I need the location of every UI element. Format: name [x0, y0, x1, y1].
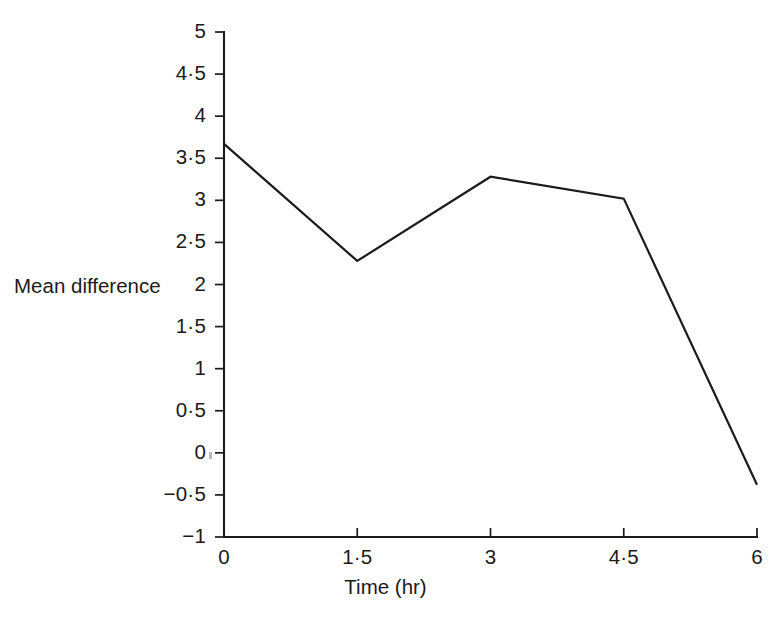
x-axis-tick-label: 4·5	[584, 545, 664, 569]
x-axis-title: Time (hr)	[0, 575, 771, 599]
data-series-line	[224, 144, 757, 485]
y-axis-tick-label: 4·5	[176, 61, 206, 85]
y-axis-tick-label: 3	[194, 187, 206, 211]
y-axis-tick-label: 3·5	[176, 145, 206, 169]
x-axis-ticks	[224, 528, 757, 537]
x-axis-tick-label: 0	[184, 545, 264, 569]
line-chart-plot	[0, 0, 771, 620]
x-axis-tick-label: 6	[717, 545, 771, 569]
y-axis-tick-label: 0	[194, 440, 206, 464]
y-axis-title: Mean difference	[14, 274, 161, 298]
x-axis-tick-label: 1·5	[317, 545, 397, 569]
y-axis-tick-label: 2·5	[176, 229, 206, 253]
x-axis-tick-label: 3	[451, 545, 531, 569]
scan-artifact-mark	[209, 452, 212, 459]
y-axis-tick-label: 1·5	[176, 314, 206, 338]
y-axis-tick-label: 5	[194, 19, 206, 43]
y-axis-tick-label: −0·5	[164, 482, 206, 506]
chart-figure: 54·543·532·521·510·50−0·5−1 01·534·56 Me…	[0, 0, 771, 620]
y-axis-tick-label: 1	[194, 356, 206, 380]
y-axis-ticks	[215, 32, 224, 537]
y-axis-tick-label: 4	[194, 103, 206, 127]
y-axis-tick-label: 0·5	[176, 398, 206, 422]
y-axis-tick-label: 2	[194, 272, 206, 296]
